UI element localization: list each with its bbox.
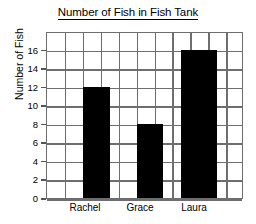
y-tick-label-14: 14 (8, 64, 38, 73)
y-tick-label-4: 4 (8, 157, 38, 166)
gridline-x-10 (226, 33, 228, 198)
y-tick-label-0: 0 (8, 194, 38, 203)
gridline-y-0 (47, 199, 242, 201)
gridline-x-4 (119, 33, 121, 198)
x-tick-label-grace: Grace (110, 202, 170, 213)
gridline-x-7 (172, 33, 174, 198)
y-tick-label-6: 6 (8, 138, 38, 147)
bar-chart: Number of Fish in Fish Tank Number of Fi… (0, 0, 256, 224)
plot-area (46, 32, 243, 199)
y-tick-label-8: 8 (8, 120, 38, 129)
x-tick-label-rachel: Rachel (54, 202, 116, 213)
y-tick-label-16: 16 (8, 46, 38, 55)
gridline-x-1 (65, 33, 67, 198)
y-tick-label-12: 12 (8, 83, 38, 92)
chart-title-text: Number of Fish in Fish Tank (58, 6, 198, 20)
bar-rachel (83, 87, 110, 198)
x-tick-label-laura: Laura (164, 202, 224, 213)
y-tick-label-2: 2 (8, 175, 38, 184)
bar-grace (137, 124, 164, 198)
chart-title: Number of Fish in Fish Tank (0, 6, 256, 18)
y-tick-label-10: 10 (8, 101, 38, 110)
bar-laura (181, 50, 217, 198)
